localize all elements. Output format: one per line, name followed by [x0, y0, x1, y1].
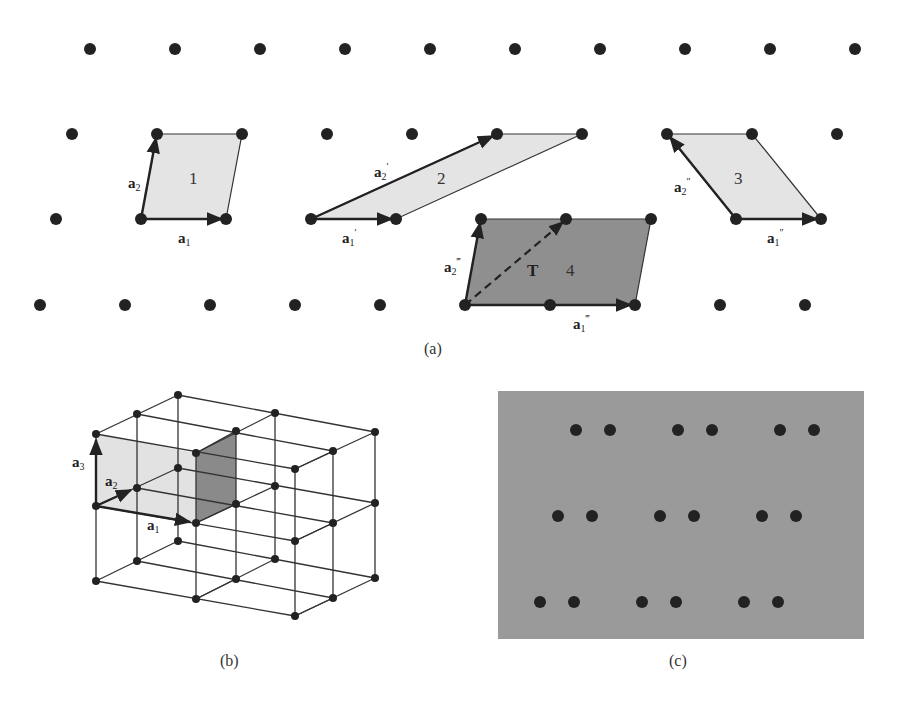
lattice-point [491, 128, 503, 140]
label-a1-prime: a1′ [342, 227, 357, 248]
lattice-point [774, 424, 786, 436]
lattice-point [738, 596, 750, 608]
lattice-point [289, 299, 301, 311]
cell-label-1: 1 [189, 169, 198, 188]
lattice-point [390, 213, 402, 225]
lattice-point [544, 299, 556, 311]
lattice-point [232, 500, 240, 508]
lattice-point [570, 424, 582, 436]
cell-label-3: 3 [734, 169, 743, 188]
lattice-point [329, 594, 337, 602]
caption-c: (c) [669, 652, 687, 670]
cell-label-2: 2 [437, 169, 446, 188]
lattice-point [151, 128, 163, 140]
lattice-point [714, 299, 726, 311]
crystal-lattice-figure: 1 a2 a1 2 a2′ a1′ 3 a2″ a1″ T 4 a2‴ a1‴ … [0, 0, 901, 708]
lattice-point [424, 43, 436, 55]
lattice-point [679, 43, 691, 55]
lattice-point [92, 502, 100, 510]
lattice-point [661, 128, 673, 140]
lattice-point [169, 43, 181, 55]
lattice-point [321, 128, 333, 140]
label-a2-prime: a2′ [374, 161, 389, 182]
lattice-point [232, 575, 240, 583]
lattice-point [50, 213, 62, 225]
lattice-point [291, 465, 299, 473]
lattice-point [756, 510, 768, 522]
panel-b: a3 a2 a1 (b) [72, 391, 379, 670]
lattice-point [815, 213, 827, 225]
lattice-point [192, 449, 200, 457]
lattice-point [66, 128, 78, 140]
lattice-point [371, 499, 379, 507]
lattice-point [371, 428, 379, 436]
lattice-point [790, 510, 802, 522]
lattice-point [291, 537, 299, 545]
caption-b: (b) [220, 652, 239, 670]
cell-label-4: 4 [566, 261, 575, 280]
lattice-point [406, 128, 418, 140]
lattice-point [232, 427, 240, 435]
panel-c: (c) [498, 391, 864, 670]
lattice-point [133, 557, 141, 565]
lattice-point [629, 299, 641, 311]
lattice-point [688, 510, 700, 522]
lattice-point [604, 424, 616, 436]
caption-a: (a) [424, 340, 442, 358]
lattice-point [271, 409, 279, 417]
unit-cell-4 [465, 219, 651, 305]
lattice-point [672, 424, 684, 436]
lattice-point [706, 424, 718, 436]
lattice-point [576, 128, 588, 140]
lattice-point [568, 596, 580, 608]
lattice-point [220, 213, 232, 225]
panel-a: 1 a2 a1 2 a2′ a1′ 3 a2″ a1″ T 4 a2‴ a1‴ … [34, 43, 861, 358]
lattice-point [475, 213, 487, 225]
lattice-point [329, 447, 337, 455]
label-a1: a1 [178, 230, 191, 248]
lattice-point [174, 537, 182, 545]
label-a2-triple-prime: a2‴ [444, 256, 462, 277]
lattice-point [636, 596, 648, 608]
lattice-point [192, 519, 200, 527]
lattice-point [534, 596, 546, 608]
unit-cell-2 [311, 134, 582, 219]
lattice-point [552, 510, 564, 522]
lattice-point [459, 299, 471, 311]
lattice-point [92, 430, 100, 438]
lattice-point [730, 213, 742, 225]
lattice-point [799, 299, 811, 311]
lattice-point [586, 510, 598, 522]
label-a1-3d: a1 [147, 517, 160, 535]
lattice-point [808, 424, 820, 436]
label-a2: a2 [128, 175, 141, 193]
lattice-point [34, 299, 46, 311]
lattice-point [192, 595, 200, 603]
lattice-point [271, 555, 279, 563]
lattice-point [254, 43, 266, 55]
lattice-point [119, 299, 131, 311]
lattice-point [831, 128, 843, 140]
lattice-point [84, 43, 96, 55]
lattice-point [594, 43, 606, 55]
lattice-point [371, 574, 379, 582]
lattice-point [204, 299, 216, 311]
lattice-point [133, 484, 141, 492]
lattice-point [174, 391, 182, 399]
lattice-point [849, 43, 861, 55]
lattice-point [174, 464, 182, 472]
lattice-point [746, 128, 758, 140]
label-a1-triple-prime: a1‴ [573, 313, 591, 334]
lattice-point [291, 612, 299, 620]
lattice-point [670, 596, 682, 608]
lattice-point [560, 213, 572, 225]
lattice-point [133, 410, 141, 418]
lattice-point [772, 596, 784, 608]
lattice-point [654, 510, 666, 522]
label-a2-double-prime: a2″ [674, 176, 691, 197]
lattice-point [92, 577, 100, 585]
lattice-point [305, 213, 317, 225]
lattice-point [135, 213, 147, 225]
lattice-point [329, 519, 337, 527]
lattice-point [339, 43, 351, 55]
